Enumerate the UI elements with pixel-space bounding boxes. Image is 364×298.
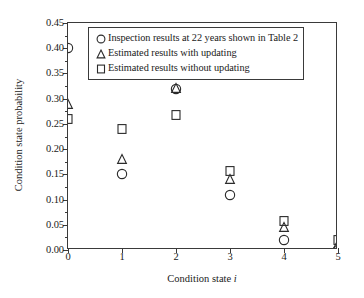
data-point-triangle (117, 154, 128, 165)
legend-item-label: Inspection results at 22 years shown in … (108, 33, 298, 43)
data-point-square (333, 234, 337, 245)
data-point-triangle (225, 174, 236, 185)
x-tick-label: 0 (65, 252, 70, 263)
chart-figure: Condition state probability Condition st… (0, 0, 364, 298)
y-tick-label: 0.25 (46, 119, 64, 130)
x-axis-title-text: Condition state (167, 273, 234, 284)
data-point-circle (116, 169, 128, 181)
y-tick-label: 0.40 (46, 43, 64, 54)
triangle-icon (93, 49, 108, 59)
legend-item: Estimated results with updating (93, 46, 298, 61)
y-tick-label: 0.45 (46, 18, 64, 29)
data-point-square (68, 113, 74, 124)
chart-legend: Inspection results at 22 years shown in … (88, 27, 304, 80)
y-tick-label: 0.20 (46, 144, 64, 155)
x-axis-title-symbol: i (234, 273, 237, 284)
x-tick-label: 4 (281, 252, 286, 263)
data-point-triangle (279, 222, 290, 233)
y-axis-title: Condition state probability (13, 79, 24, 192)
data-point-square (225, 166, 236, 177)
y-tick-label: 0.15 (46, 169, 64, 180)
y-tick-label: 0.35 (46, 68, 64, 79)
data-point-circle (68, 42, 74, 54)
data-point-square (171, 109, 182, 120)
square-icon (93, 64, 108, 74)
x-tick-label: 3 (227, 252, 232, 263)
y-tick-label: 0.05 (46, 220, 64, 231)
data-point-circle (278, 234, 290, 246)
x-tick-label: 2 (173, 252, 178, 263)
legend-item-label: Estimated results with updating (108, 48, 237, 58)
y-tick-label: 0.30 (46, 93, 64, 104)
legend-item-label: Estimated results without updating (108, 63, 250, 73)
circle-icon (93, 34, 108, 44)
data-point-triangle (68, 98, 74, 109)
y-tick-label: 0.10 (46, 194, 64, 205)
data-point-circle (332, 244, 336, 248)
data-point-circle (224, 189, 236, 201)
data-point-square (279, 216, 290, 227)
legend-item: Inspection results at 22 years shown in … (93, 31, 298, 46)
plot-area: 0.000.050.100.150.200.250.300.350.400.45… (67, 22, 337, 249)
data-point-square (117, 123, 128, 134)
data-point-triangle (171, 82, 182, 93)
legend-item: Estimated results without updating (93, 61, 298, 76)
data-point-circle (170, 83, 182, 95)
x-tick-label: 5 (335, 252, 340, 263)
x-axis-title: Condition state i (167, 273, 236, 284)
y-tick-label: 0.00 (46, 245, 64, 256)
data-point-triangle (333, 238, 337, 248)
x-tick-label: 1 (119, 252, 124, 263)
